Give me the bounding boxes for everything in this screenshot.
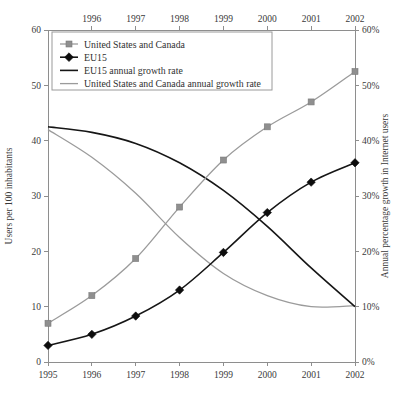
legend-item-label: EU15 (84, 52, 107, 63)
right-axis-ticks: 0%10%20%30%40%50%60% (355, 25, 380, 367)
right-tick-label: 10% (362, 302, 380, 312)
bottom-tick-label: 2002 (346, 370, 365, 380)
legend-item-label: EU15 annual growth rate (84, 65, 183, 76)
data-point-marker (308, 99, 314, 105)
chart-legend: United States and CanadaEU15EU15 annual … (52, 32, 272, 90)
bottom-axis-ticks: 19951996199719981999200020012002 (39, 362, 365, 380)
data-point-marker (264, 124, 270, 130)
series-united-states-and-canada (45, 69, 358, 327)
bottom-tick-label: 1996 (82, 370, 101, 380)
legend-item: United States and Canada annual growth r… (60, 78, 261, 89)
top-tick-label: 1998 (170, 14, 189, 24)
chart-figure: 0102030405060 0%10%20%30%40%50%60% 19951… (0, 0, 395, 394)
left-tick-label: 0 (36, 357, 41, 367)
data-point-marker (45, 320, 51, 326)
data-point-marker (351, 159, 359, 167)
top-tick-label: 1999 (214, 14, 233, 24)
data-point-marker (177, 204, 183, 210)
series-eu15-annual-growth-rate (48, 127, 355, 307)
left-axis-ticks: 0102030405060 (32, 25, 49, 367)
data-point-marker (220, 157, 226, 163)
bottom-tick-label: 1995 (39, 370, 58, 380)
series-united-states-and-canada-annual-growth-rate (48, 130, 355, 308)
bottom-tick-label: 1999 (214, 370, 233, 380)
bottom-tick-label: 2000 (258, 370, 277, 380)
right-tick-label: 20% (362, 247, 380, 257)
top-tick-label: 2001 (302, 14, 321, 24)
series-line (48, 127, 355, 307)
top-tick-label: 2000 (258, 14, 277, 24)
series-line (48, 163, 355, 346)
left-axis-title: Users per 100 inhabitants (4, 147, 14, 244)
left-tick-label: 40 (32, 136, 42, 146)
series-line (48, 130, 355, 308)
data-point-marker (133, 256, 139, 262)
top-tick-label: 2002 (346, 14, 365, 24)
left-tick-label: 20 (32, 247, 42, 257)
legend-item-label: United States and Canada annual growth r… (84, 78, 261, 89)
right-tick-label: 50% (362, 81, 380, 91)
bottom-tick-label: 1997 (126, 370, 145, 380)
top-tick-label: 1996 (82, 14, 101, 24)
data-point-marker (352, 69, 358, 75)
right-tick-label: 60% (362, 25, 380, 35)
left-tick-label: 50 (32, 81, 42, 91)
series-eu15 (44, 159, 359, 350)
series-layer (44, 69, 359, 350)
data-point-marker (132, 312, 140, 320)
top-axis-ticks: 1996199719981999200020012002 (82, 14, 364, 30)
data-point-marker (89, 293, 95, 299)
data-point-marker (44, 341, 52, 349)
bottom-tick-label: 2001 (302, 370, 321, 380)
chart-canvas: 0102030405060 0%10%20%30%40%50%60% 19951… (0, 0, 395, 394)
right-tick-label: 30% (362, 191, 380, 201)
right-axis-title: Annual percentage growth in Internet use… (380, 114, 390, 279)
right-tick-label: 0% (362, 357, 375, 367)
right-tick-label: 40% (362, 136, 380, 146)
left-tick-label: 60 (32, 25, 42, 35)
bottom-tick-label: 1998 (170, 370, 189, 380)
legend-item-label: United States and Canada (84, 39, 186, 50)
legend-marker-square-icon (66, 41, 72, 47)
data-point-marker (88, 330, 96, 338)
top-tick-label: 1997 (126, 14, 145, 24)
series-line (48, 72, 355, 324)
data-point-marker (307, 178, 315, 186)
left-tick-label: 10 (32, 302, 42, 312)
left-tick-label: 30 (32, 191, 42, 201)
